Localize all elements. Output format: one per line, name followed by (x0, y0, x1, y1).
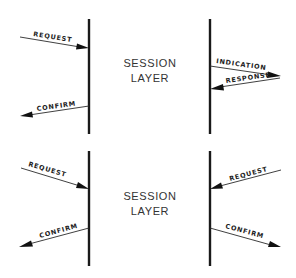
top-left-request-arrow: REQUEST (20, 30, 89, 49)
top-layer-label-line1: SESSION (123, 57, 176, 69)
bottom-right-request-label: REQUEST (228, 165, 268, 183)
top-right-indication-label: INDICATION (216, 57, 267, 72)
arrowhead-right-icon (268, 241, 281, 247)
arrowhead-right-icon (76, 182, 89, 189)
bottom-left-request-arrow: REQUEST (21, 160, 89, 189)
top-right-response-arrow: RESPONSE (210, 71, 280, 91)
top-layer-label-line2: LAYER (131, 72, 169, 84)
top-left-confirm-arrow: CONFIRM (20, 100, 89, 118)
bottom-section: SESSION LAYER REQUEST CONFIRM REQUEST CO… (19, 151, 281, 266)
session-layer-primitives-diagram: SESSION LAYER REQUEST CONFIRM INDICATION… (0, 0, 296, 278)
arrowhead-right-icon (76, 44, 89, 50)
top-section: SESSION LAYER REQUEST CONFIRM INDICATION… (20, 19, 281, 134)
arrowhead-left-icon (20, 112, 33, 118)
bottom-right-request-arrow: REQUEST (210, 165, 281, 189)
bottom-right-confirm-arrow: CONFIRM (210, 222, 281, 247)
bottom-left-confirm-arrow: CONFIRM (19, 222, 89, 247)
bottom-layer-label-line1: SESSION (123, 190, 176, 202)
arrowhead-left-icon (210, 84, 224, 91)
arrowhead-left-icon (19, 241, 33, 248)
arrowhead-left-icon (210, 183, 223, 190)
bottom-left-confirm-label: CONFIRM (38, 222, 78, 240)
bottom-layer-label-line2: LAYER (131, 205, 169, 217)
